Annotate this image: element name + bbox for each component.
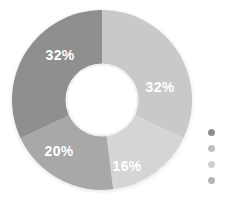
legend-item[interactable] bbox=[208, 172, 228, 188]
legend-marker-icon bbox=[208, 129, 215, 136]
donut-chart: 32%16%20%32% bbox=[0, 0, 228, 202]
legend-marker-icon bbox=[208, 161, 215, 168]
donut-svg bbox=[9, 7, 195, 193]
legend-item[interactable] bbox=[208, 156, 228, 172]
legend-marker-icon bbox=[208, 145, 215, 152]
legend-marker-icon bbox=[208, 177, 215, 184]
donut-chart-graphic: 32%16%20%32% bbox=[9, 7, 195, 193]
legend-item[interactable] bbox=[208, 124, 228, 140]
legend-item[interactable] bbox=[208, 140, 228, 156]
chart-legend bbox=[208, 124, 228, 188]
